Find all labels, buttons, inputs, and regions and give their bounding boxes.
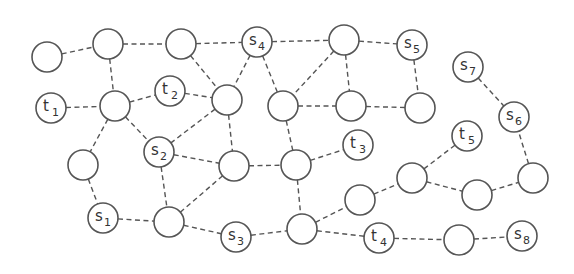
edge-O-N [491,182,518,190]
node-O [462,180,492,210]
node-Q [154,207,184,237]
node-t3: t3 [343,130,373,160]
node-label: t [371,227,377,245]
node-circle [144,137,174,167]
edge-s7-s6 [478,78,504,106]
edge-E-s2 [125,117,148,141]
edge-A-B [62,47,94,54]
node-s3: s3 [221,222,251,252]
node-circle [212,85,242,115]
node-circle [88,203,118,233]
node-label: s [249,31,257,49]
node-circle [166,29,196,59]
edge-s5-I [414,60,418,93]
edge-B-E [110,59,114,91]
node-circle [268,91,298,121]
node-I [405,93,435,123]
node-t5: t5 [452,121,482,151]
edge-M-O [427,182,463,191]
node-label: s [514,225,522,243]
node-label: t [43,97,49,115]
node-circle [36,93,66,123]
node-H [336,91,366,121]
node-circle [518,163,548,193]
node-circle [32,42,62,72]
edge-C-s4 [196,42,242,43]
node-circle [242,27,272,57]
node-circle [155,76,185,106]
node-circle [462,180,492,210]
node-label: t [350,134,356,152]
node-circle [397,30,427,60]
edge-Q-s3 [184,225,222,233]
edge-S-s8 [474,237,507,239]
edge-s2-K [174,155,220,163]
node-label: s [404,34,412,52]
node-K [219,151,249,181]
node-subscript: 2 [171,89,178,102]
edge-R-t4 [317,231,364,237]
edge-D-s5 [359,41,397,44]
edge-D-H [346,55,350,91]
node-t2: t2 [155,76,185,106]
node-subscript: 2 [160,150,167,163]
node-D [329,25,359,55]
node-F [212,85,242,115]
edge-s1-Q [118,219,154,221]
edge-s3-R [251,231,287,235]
node-C [166,29,196,59]
node-label: s [151,141,159,159]
edge-D-G [293,51,334,95]
node-subscript: 8 [523,234,530,247]
edge-H-I [366,106,405,107]
edge-K-L [249,165,281,166]
node-s4: s4 [242,27,272,57]
node-circle [343,130,373,160]
node-circle [154,207,184,237]
node-circle [405,93,435,123]
edge-M-t5 [424,145,455,169]
node-label: s [460,56,468,74]
node-subscript: 4 [380,236,387,249]
node-t4: t4 [364,223,394,253]
graph-diagram: s4s5s7t1t2s6s2t3t5s1s3t4s8 [0,0,574,274]
node-s2: s2 [144,137,174,167]
node-circle [287,214,317,244]
edge-t2-F [185,93,212,97]
node-circle [453,52,483,82]
edge-s4-F [234,55,250,86]
node-label: s [506,106,514,124]
node-s6: s6 [499,102,529,132]
edge-t4-S [394,238,444,239]
node-s5: s5 [397,30,427,60]
node-label: t [459,125,465,143]
node-P [345,185,375,215]
edge-C-F [191,56,218,89]
node-circle [444,225,474,255]
node-circle [281,150,311,180]
node-circle [329,25,359,55]
node-circle [93,29,123,59]
node-subscript: 7 [469,65,476,78]
node-L [281,150,311,180]
node-G [268,91,298,121]
node-R [287,214,317,244]
node-s7: s7 [453,52,483,82]
node-circle [499,102,529,132]
node-circle [221,222,251,252]
node-M [397,163,427,193]
edge-s2-Q [161,167,167,207]
edge-P-M [374,184,398,194]
node-subscript: 3 [237,235,244,248]
node-label: t [162,80,168,98]
node-circle [68,150,98,180]
edge-F-s2 [171,109,215,143]
node-A [32,42,62,72]
edge-K-Q [180,176,222,212]
edge-G-L [286,121,293,151]
node-S [444,225,474,255]
edge-E-t2 [129,95,155,102]
node-label: s [228,226,236,244]
node-subscript: 6 [515,115,522,128]
edge-L-R [297,180,300,214]
